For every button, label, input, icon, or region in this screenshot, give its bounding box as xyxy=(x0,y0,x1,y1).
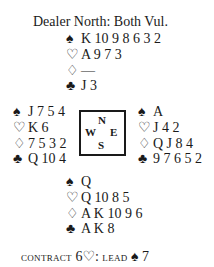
south-diamonds-cards: A K 10 9 6 xyxy=(81,206,142,221)
club-icon: ♣ xyxy=(66,221,81,237)
spade-icon: ♠ xyxy=(66,174,81,190)
north-diamonds-cards: — xyxy=(81,63,95,78)
east-diamonds: ♢Q J 8 4 xyxy=(138,136,202,152)
south-diamonds: ♢A K 10 9 6 xyxy=(66,206,142,222)
west-diamonds: ♢7 5 3 2 xyxy=(13,136,67,152)
east-diamonds-cards: Q J 8 4 xyxy=(153,136,193,151)
south-hearts: ♡Q 10 8 5 xyxy=(66,190,142,206)
separator: : xyxy=(95,249,99,264)
east-spades-cards: A xyxy=(153,104,163,119)
contract-label: CONTRACT xyxy=(21,249,72,264)
east-hand: ♠A ♡J 4 2 ♢Q J 8 4 ♣9 7 6 5 2 xyxy=(138,104,202,167)
west-hearts: ♡K 6 xyxy=(13,120,67,136)
club-icon: ♣ xyxy=(66,78,81,94)
east-clubs-cards: 9 7 6 5 2 xyxy=(153,151,202,166)
heart-icon: ♡ xyxy=(138,120,153,136)
south-spades-cards: Q xyxy=(81,174,91,189)
north-spades: ♠K 10 9 8 6 3 2 xyxy=(66,31,161,47)
north-clubs: ♣J 3 xyxy=(66,78,161,94)
heart-icon: ♡ xyxy=(82,249,95,264)
north-spades-cards: K 10 9 8 6 3 2 xyxy=(81,31,161,46)
west-hand: ♠J 7 5 4 ♡K 6 ♢7 5 3 2 ♣Q 10 4 xyxy=(13,104,67,167)
south-clubs-cards: A K 8 xyxy=(81,221,114,236)
lead-card: 7 xyxy=(142,249,149,264)
spade-icon: ♠ xyxy=(138,104,153,120)
compass-north: N xyxy=(98,115,106,126)
north-hand: ♠K 10 9 8 6 3 2 ♡A 9 7 3 ♢— ♣J 3 xyxy=(66,31,161,94)
heart-icon: ♡ xyxy=(66,190,81,206)
east-hearts: ♡J 4 2 xyxy=(138,120,202,136)
lead-label: LEAD xyxy=(102,249,127,264)
spade-icon: ♠ xyxy=(131,249,138,264)
east-clubs: ♣9 7 6 5 2 xyxy=(138,151,202,167)
deal-title: Dealer North: Both Vul. xyxy=(33,14,168,30)
west-spades-cards: J 7 5 4 xyxy=(28,104,65,119)
west-spades: ♠J 7 5 4 xyxy=(13,104,67,120)
west-hearts-cards: K 6 xyxy=(28,120,49,135)
north-diamonds: ♢— xyxy=(66,63,161,79)
contract-line: CONTRACT 6♡: LEAD ♠ 7 xyxy=(21,249,149,265)
south-hearts-cards: Q 10 8 5 xyxy=(81,190,130,205)
compass-east: E xyxy=(110,127,117,138)
spade-icon: ♠ xyxy=(66,31,81,47)
diamond-icon: ♢ xyxy=(66,63,81,79)
compass-box: N W E S xyxy=(79,110,126,156)
club-icon: ♣ xyxy=(13,151,28,167)
club-icon: ♣ xyxy=(138,151,153,167)
south-spades: ♠Q xyxy=(66,174,142,190)
compass-west: W xyxy=(85,127,96,138)
south-hand: ♠Q ♡Q 10 8 5 ♢A K 10 9 6 ♣A K 8 xyxy=(66,174,142,237)
east-hearts-cards: J 4 2 xyxy=(153,120,179,135)
east-spades: ♠A xyxy=(138,104,202,120)
diamond-icon: ♢ xyxy=(138,136,153,152)
south-clubs: ♣A K 8 xyxy=(66,221,142,237)
west-clubs-cards: Q 10 4 xyxy=(28,151,66,166)
spade-icon: ♠ xyxy=(13,104,28,120)
west-clubs: ♣Q 10 4 xyxy=(13,151,67,167)
west-diamonds-cards: 7 5 3 2 xyxy=(28,136,67,151)
north-clubs-cards: J 3 xyxy=(81,78,97,93)
north-hearts-cards: A 9 7 3 xyxy=(81,47,122,62)
north-hearts: ♡A 9 7 3 xyxy=(66,47,161,63)
heart-icon: ♡ xyxy=(66,47,81,63)
heart-icon: ♡ xyxy=(13,120,28,136)
diamond-icon: ♢ xyxy=(66,206,81,222)
diamond-icon: ♢ xyxy=(13,136,28,152)
compass-south: S xyxy=(98,140,104,151)
